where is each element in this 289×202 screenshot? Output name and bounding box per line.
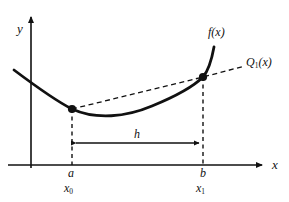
secant-label-argument: (x)	[258, 55, 271, 69]
tick-label-x1: x1	[196, 182, 205, 194]
secant-label-q1x: Q1(x)	[246, 56, 272, 68]
figure-canvas	[0, 0, 289, 202]
tick-label-x0: x0	[64, 182, 73, 194]
tick-label-x1-subscript: 1	[201, 187, 205, 196]
x-axis-label: x	[272, 158, 278, 171]
point-marker-b	[199, 73, 207, 81]
h-measure-label: h	[134, 128, 140, 140]
secant-label-base: Q	[246, 55, 255, 69]
secant-label-subscript: 1	[255, 61, 259, 70]
point-marker-a	[68, 105, 76, 113]
tick-label-x0-subscript: 0	[69, 187, 73, 196]
y-axis-label: y	[17, 22, 23, 35]
tick-label-a: a	[68, 167, 74, 179]
figure-trapezoid-interpolation: y x f(x) Q1(x) a b x0 x1 h	[0, 0, 289, 202]
function-label-fx: f(x)	[208, 26, 225, 38]
tick-label-b: b	[200, 167, 206, 179]
